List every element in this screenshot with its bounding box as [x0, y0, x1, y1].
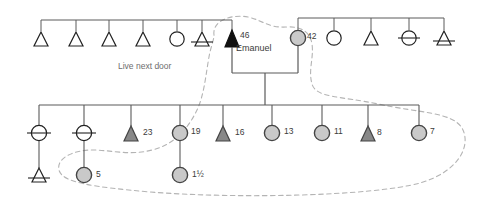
- age-label-g3-d3: 1½: [192, 169, 204, 179]
- note-live-next-door: Live next door: [118, 61, 172, 71]
- age-label-g2-c8: 8: [377, 127, 382, 137]
- person-g1-p11[interactable]: [398, 31, 420, 45]
- age-label-spouse: 42: [307, 31, 317, 41]
- proband-name-label: Emanuel: [236, 43, 272, 53]
- genogram-svg: 46 Emanuel 42 Live next door 23 19 16 13…: [0, 0, 481, 216]
- person-g2-c4[interactable]: [172, 125, 187, 140]
- generation2-sibship-line: [39, 105, 419, 126]
- age-label-g2-c5: 16: [235, 127, 245, 137]
- person-g1-p1[interactable]: [34, 32, 48, 46]
- person-g1-p4[interactable]: [136, 32, 150, 46]
- person-g1-p12[interactable]: [433, 31, 455, 45]
- person-g2-c6[interactable]: [264, 125, 279, 140]
- person-g1-p10[interactable]: [364, 31, 378, 45]
- generation1-sibship-line: [41, 20, 232, 31]
- age-label-proband: 46: [240, 30, 250, 40]
- age-label-g2-c7: 11: [334, 126, 343, 136]
- age-label-g2-c3: 23: [143, 127, 153, 137]
- person-g1-p9[interactable]: [327, 31, 341, 45]
- genogram-canvas: 46 Emanuel 42 Live next door 23 19 16 13…: [0, 0, 481, 216]
- person-g3-d1[interactable]: [28, 168, 50, 182]
- person-g3-d3[interactable]: [172, 167, 187, 182]
- age-label-g2-c9: 7: [430, 126, 435, 136]
- age-label-g3-d2: 5: [96, 169, 101, 179]
- person-g1-p6[interactable]: [191, 32, 213, 46]
- person-g2-c8[interactable]: [361, 126, 375, 141]
- person-g2-c1[interactable]: [27, 125, 51, 140]
- generation3-descent-lines: [39, 141, 180, 168]
- person-g2-c9[interactable]: [411, 125, 426, 140]
- person-g1-p2[interactable]: [69, 32, 83, 46]
- generation1-right-sibship-line: [298, 18, 444, 30]
- person-g2-c5[interactable]: [216, 126, 230, 141]
- marriage-line: [232, 46, 298, 105]
- age-label-g2-c6: 13: [284, 126, 294, 136]
- person-g2-c2[interactable]: [72, 125, 96, 140]
- age-label-g2-c4: 19: [191, 126, 201, 136]
- person-g2-c3[interactable]: [124, 126, 138, 141]
- person-g1-p5[interactable]: [170, 32, 184, 46]
- person-g1-p3[interactable]: [102, 32, 116, 46]
- person-g3-d2[interactable]: [76, 167, 91, 182]
- person-g2-c7[interactable]: [314, 125, 329, 140]
- person-g1-p8-spouse[interactable]: [290, 30, 305, 45]
